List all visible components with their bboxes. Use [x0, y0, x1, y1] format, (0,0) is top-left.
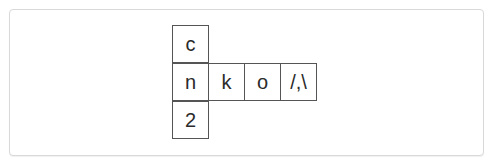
- grid-cell: c: [172, 25, 209, 63]
- grid-cell: k: [208, 63, 245, 101]
- grid-cell: 2: [172, 101, 209, 139]
- grid-cell: o: [244, 63, 281, 101]
- grid-cell: /,\: [280, 63, 317, 101]
- grid-cell: n: [172, 63, 209, 101]
